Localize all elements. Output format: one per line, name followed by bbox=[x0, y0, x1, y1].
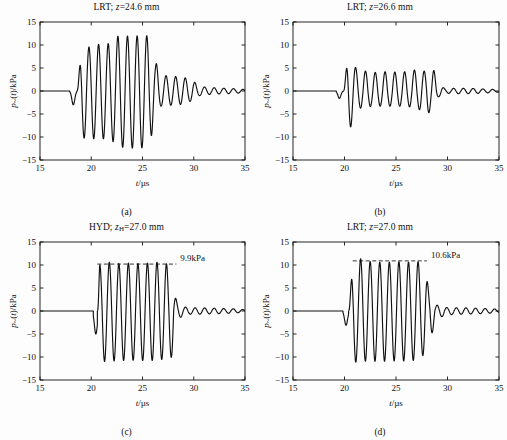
panel-c: HYD; zH=27.0 mm 1520253035151050−5−10−15… bbox=[0, 220, 253, 440]
svg-text:0: 0 bbox=[32, 306, 37, 316]
svg-text:20: 20 bbox=[87, 163, 97, 173]
svg-text:−5: −5 bbox=[26, 329, 36, 339]
svg-text:15: 15 bbox=[289, 163, 299, 173]
svg-text:10: 10 bbox=[27, 260, 37, 270]
svg-text:t/µs: t/µs bbox=[389, 398, 403, 408]
panel-b: LRT; z=26.6 mm 1520253035151050−5−10−15t… bbox=[253, 0, 507, 220]
panel-b-caption: (b) bbox=[253, 207, 507, 217]
svg-text:35: 35 bbox=[241, 383, 251, 393]
svg-text:15: 15 bbox=[27, 237, 37, 247]
panel-c-plot: 1520253035151050−5−10−15t/µsp~(t)/kPa9.9… bbox=[0, 220, 253, 440]
svg-text:20: 20 bbox=[340, 383, 350, 393]
svg-text:10.6kPa: 10.6kPa bbox=[431, 250, 460, 260]
svg-text:−5: −5 bbox=[279, 329, 289, 339]
svg-text:9.9kPa: 9.9kPa bbox=[180, 253, 205, 263]
svg-text:25: 25 bbox=[138, 163, 148, 173]
panel-a-caption: (a) bbox=[0, 207, 253, 217]
svg-text:−15: −15 bbox=[275, 375, 290, 385]
svg-text:−10: −10 bbox=[22, 132, 37, 142]
svg-text:5: 5 bbox=[285, 283, 290, 293]
svg-text:15: 15 bbox=[280, 17, 290, 27]
panel-d-caption: (d) bbox=[253, 427, 507, 437]
svg-text:25: 25 bbox=[392, 163, 402, 173]
svg-text:35: 35 bbox=[241, 163, 251, 173]
svg-text:35: 35 bbox=[495, 383, 505, 393]
panel-a: LRT; z=24.6 mm 1520253035151050−5−10−15t… bbox=[0, 0, 253, 220]
svg-text:30: 30 bbox=[443, 163, 453, 173]
svg-text:−15: −15 bbox=[22, 375, 37, 385]
svg-text:10: 10 bbox=[280, 40, 290, 50]
svg-text:10: 10 bbox=[280, 260, 290, 270]
svg-text:t/µs: t/µs bbox=[136, 398, 150, 408]
svg-text:30: 30 bbox=[443, 383, 453, 393]
svg-text:p~(t)/kPa: p~(t)/kPa bbox=[261, 74, 273, 108]
svg-text:−10: −10 bbox=[275, 352, 290, 362]
svg-text:20: 20 bbox=[87, 383, 97, 393]
svg-text:25: 25 bbox=[392, 383, 402, 393]
svg-text:−15: −15 bbox=[22, 155, 37, 165]
svg-text:0: 0 bbox=[285, 86, 290, 96]
svg-text:15: 15 bbox=[36, 383, 46, 393]
svg-text:−10: −10 bbox=[22, 352, 37, 362]
svg-text:−10: −10 bbox=[275, 132, 290, 142]
svg-text:−5: −5 bbox=[26, 109, 36, 119]
svg-text:15: 15 bbox=[280, 237, 290, 247]
svg-text:25: 25 bbox=[138, 383, 148, 393]
figure-grid: LRT; z=24.6 mm 1520253035151050−5−10−15t… bbox=[0, 0, 507, 440]
panel-c-caption: (c) bbox=[0, 427, 253, 437]
svg-text:5: 5 bbox=[285, 63, 290, 73]
svg-text:15: 15 bbox=[36, 163, 46, 173]
svg-text:30: 30 bbox=[189, 163, 199, 173]
svg-text:10: 10 bbox=[27, 40, 37, 50]
svg-text:35: 35 bbox=[495, 163, 505, 173]
svg-text:−15: −15 bbox=[275, 155, 290, 165]
panel-b-plot: 1520253035151050−5−10−15t/µsp~(t)/kPa bbox=[253, 0, 507, 220]
svg-text:5: 5 bbox=[32, 283, 37, 293]
svg-text:20: 20 bbox=[340, 163, 350, 173]
svg-text:−5: −5 bbox=[279, 109, 289, 119]
svg-text:t/µs: t/µs bbox=[136, 178, 150, 188]
svg-text:p~(t)/kPa: p~(t)/kPa bbox=[8, 294, 20, 328]
panel-a-plot: 1520253035151050−5−10−15t/µsp~(t)/kPa bbox=[0, 0, 253, 220]
svg-text:p~(t)/kPa: p~(t)/kPa bbox=[261, 294, 273, 328]
panel-d-plot: 1520253035151050−5−10−15t/µsp~(t)/kPa10.… bbox=[253, 220, 507, 440]
svg-text:0: 0 bbox=[32, 86, 37, 96]
svg-text:5: 5 bbox=[32, 63, 37, 73]
svg-text:0: 0 bbox=[285, 306, 290, 316]
panel-d: LRT; z=27.0 mm 1520253035151050−5−10−15t… bbox=[253, 220, 507, 440]
svg-text:15: 15 bbox=[289, 383, 299, 393]
svg-text:p~(t)/kPa: p~(t)/kPa bbox=[8, 74, 20, 108]
svg-text:t/µs: t/µs bbox=[389, 178, 403, 188]
svg-text:30: 30 bbox=[189, 383, 199, 393]
svg-text:15: 15 bbox=[27, 17, 37, 27]
